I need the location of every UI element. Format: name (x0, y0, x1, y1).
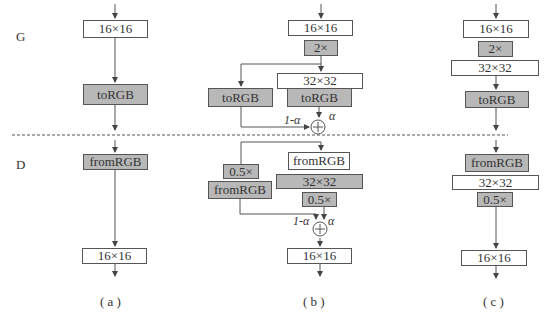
b-d-weight-right: α (328, 214, 334, 229)
b-d-resolution-in-block: 32×32 (276, 174, 363, 189)
sum-node-discriminator (313, 222, 327, 236)
c-d-resolution-in-block: 32×32 (452, 175, 539, 190)
b-d-downsample-left-block: 0.5× (223, 164, 259, 179)
a-g-resolution-block: 16×16 (83, 20, 148, 38)
b-g-weight-left: 1-α (284, 113, 300, 128)
a-g-torgb-block: toRGB (83, 84, 148, 105)
b-g-weight-right: α (329, 109, 335, 124)
b-g-upsample-block: 2× (304, 40, 338, 56)
c-g-upsample-block: 2× (478, 41, 513, 57)
generator-label: G (16, 29, 25, 45)
caption-b: ( b ) (303, 294, 325, 310)
sum-node-generator (311, 120, 325, 134)
b-d-fromrgb-right-block: fromRGB (288, 152, 350, 170)
c-d-downsample-block: 0.5× (477, 192, 513, 207)
c-d-fromrgb-block: fromRGB (465, 154, 529, 172)
a-d-resolution-block: 16×16 (82, 248, 147, 264)
b-g-torgb-left-block: toRGB (208, 88, 273, 107)
a-d-fromrgb-block: fromRGB (83, 154, 148, 170)
discriminator-label: D (16, 157, 25, 173)
c-g-resolution-in-block: 16×16 (463, 20, 529, 38)
b-g-torgb-right-block: toRGB (287, 88, 352, 107)
caption-a: ( a ) (100, 294, 121, 310)
b-g-resolution-in-block: 16×16 (288, 20, 353, 36)
b-g-resolution-out-block: 32×32 (277, 73, 363, 89)
b-d-weight-left: 1-α (293, 214, 309, 229)
caption-c: ( c ) (483, 294, 504, 310)
c-g-resolution-out-block: 32×32 (451, 60, 539, 76)
b-d-fromrgb-left-block: fromRGB (208, 181, 272, 199)
b-d-resolution-out-block: 16×16 (287, 248, 352, 264)
b-d-downsample-right-block: 0.5× (302, 192, 337, 207)
c-d-resolution-out-block: 16×16 (461, 250, 527, 266)
c-g-torgb-block: toRGB (465, 91, 529, 108)
